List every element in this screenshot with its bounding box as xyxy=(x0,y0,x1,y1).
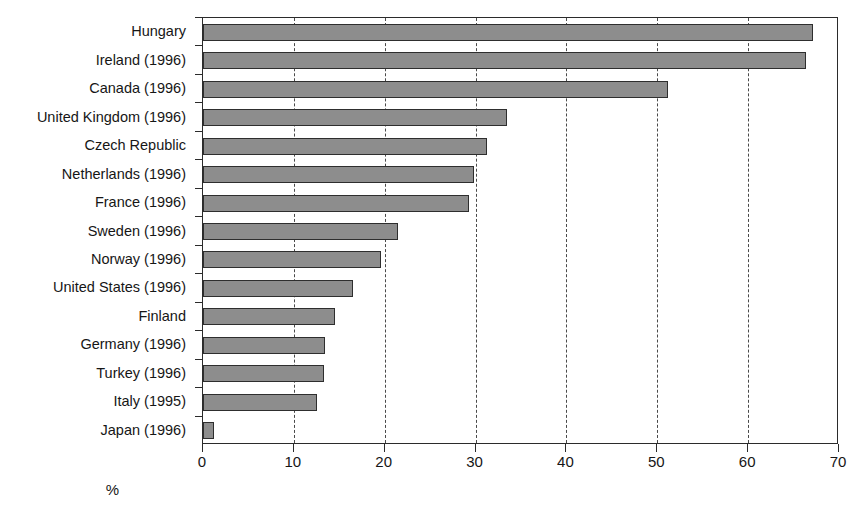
category-label: Canada (1996) xyxy=(0,81,194,96)
horizontal-bar-chart: HungaryIreland (1996)Canada (1996)United… xyxy=(0,0,855,511)
value-tick-label: 0 xyxy=(198,454,206,469)
value-tick-label: 60 xyxy=(739,454,756,469)
value-axis-title-text: % xyxy=(106,481,119,498)
category-label: Japan (1996) xyxy=(0,423,194,438)
category-label: Turkey (1996) xyxy=(0,366,194,381)
category-label: Norway (1996) xyxy=(0,252,194,267)
value-tick-label: 70 xyxy=(830,454,847,469)
bar xyxy=(203,81,668,98)
bar xyxy=(203,24,813,41)
value-tick-60 xyxy=(747,444,748,452)
value-tick-label: 20 xyxy=(375,454,392,469)
bar xyxy=(203,138,487,155)
category-label: United States (1996) xyxy=(0,280,194,295)
value-axis-ticks xyxy=(202,444,840,452)
bar xyxy=(203,337,325,354)
plot-area xyxy=(202,17,838,444)
value-tick-label: 30 xyxy=(466,454,483,469)
value-tick-label: 40 xyxy=(557,454,574,469)
value-tick-20 xyxy=(384,444,385,452)
bar xyxy=(203,308,335,325)
category-axis-labels: HungaryIreland (1996)Canada (1996)United… xyxy=(0,17,194,444)
value-tick-0 xyxy=(202,444,203,452)
value-axis-tick-labels: 010203040506070 xyxy=(202,454,840,476)
bar-series xyxy=(203,18,837,443)
bar xyxy=(203,223,398,240)
category-label: Netherlands (1996) xyxy=(0,167,194,182)
category-label: Ireland (1996) xyxy=(0,53,194,68)
value-tick-70 xyxy=(838,444,839,452)
value-tick-label: 10 xyxy=(285,454,302,469)
bar xyxy=(203,52,806,69)
bar xyxy=(203,365,324,382)
value-axis-title: % xyxy=(0,481,855,498)
bar xyxy=(203,166,474,183)
value-tick-50 xyxy=(656,444,657,452)
value-tick-40 xyxy=(565,444,566,452)
bar xyxy=(203,195,469,212)
category-label: Sweden (1996) xyxy=(0,224,194,239)
category-label: Czech Republic xyxy=(0,138,194,153)
bar xyxy=(203,394,317,411)
category-label: Finland xyxy=(0,309,194,324)
bar xyxy=(203,251,381,268)
category-label: Hungary xyxy=(0,24,194,39)
category-label: Italy (1995) xyxy=(0,394,194,409)
value-tick-10 xyxy=(293,444,294,452)
category-label: Germany (1996) xyxy=(0,337,194,352)
bar xyxy=(203,109,507,126)
category-label: France (1996) xyxy=(0,195,194,210)
value-tick-30 xyxy=(475,444,476,452)
category-label: United Kingdom (1996) xyxy=(0,110,194,125)
value-tick-label: 50 xyxy=(648,454,665,469)
bar xyxy=(203,422,214,439)
bar xyxy=(203,280,353,297)
